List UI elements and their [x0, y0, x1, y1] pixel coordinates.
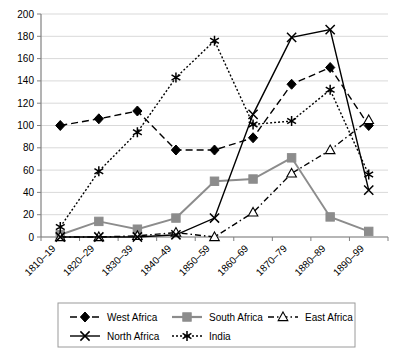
- data-point-filled-square: [183, 313, 191, 321]
- data-point-asterisk: [210, 36, 219, 46]
- data-point-filled-square: [249, 175, 257, 183]
- gridlines: [41, 14, 388, 237]
- data-point-filled-diamond: [210, 145, 219, 155]
- legend-item-south-africa[interactable]: South Africa: [172, 312, 263, 323]
- x-tick-label: 1880–89: [292, 242, 328, 278]
- y-tick-label: 100: [17, 120, 34, 131]
- data-point-filled-square: [210, 177, 218, 185]
- x-tick-label: 1850–59: [177, 242, 213, 278]
- y-tick-label: 20: [23, 209, 35, 220]
- y-tick-label: 140: [17, 75, 34, 86]
- y-tick-label: 200: [17, 9, 34, 20]
- legend-label: North Africa: [107, 331, 160, 342]
- y-tick-label: 80: [23, 142, 35, 153]
- data-point-filled-square: [326, 213, 334, 221]
- data-point-filled-diamond: [80, 312, 89, 322]
- series-line: [60, 68, 368, 151]
- data-series-layer: [55, 25, 373, 242]
- legend-label: South Africa: [209, 312, 263, 323]
- y-tick-label: 180: [17, 31, 34, 42]
- data-point-open-triangle: [325, 145, 335, 154]
- legend-item-north-africa[interactable]: North Africa: [70, 331, 160, 342]
- data-point-asterisk: [287, 116, 296, 126]
- data-point-asterisk: [183, 331, 192, 341]
- series-south-africa: [56, 154, 373, 239]
- series-india: [56, 36, 373, 232]
- x-tick-label: 1840–49: [138, 242, 174, 278]
- legend-item-west-africa[interactable]: West Africa: [70, 312, 158, 323]
- data-point-cross-x: [248, 110, 257, 119]
- data-point-open-triangle: [364, 115, 374, 124]
- y-axis-tick-labels: 020406080100120140160180200: [17, 9, 34, 243]
- x-tick-label: 1890–99: [331, 242, 367, 278]
- y-tick-label: 160: [17, 53, 34, 64]
- x-tick-label: 1860–69: [215, 242, 251, 278]
- legend-label: India: [209, 331, 231, 342]
- y-tick-label: 60: [23, 165, 35, 176]
- series-west-africa: [56, 63, 374, 156]
- data-point-filled-diamond: [171, 145, 180, 155]
- y-tick-label: 0: [28, 232, 34, 243]
- data-point-filled-square: [287, 154, 295, 162]
- series-line: [60, 41, 368, 227]
- chart-legend: West AfricaSouth AfricaEast AfricaNorth …: [58, 303, 355, 347]
- data-point-filled-square: [172, 214, 180, 222]
- data-point-filled-diamond: [248, 133, 257, 143]
- data-point-cross-x: [364, 186, 373, 195]
- y-tick-label: 120: [17, 98, 34, 109]
- legend-item-east-africa[interactable]: East Africa: [268, 312, 353, 323]
- x-tick-label: 1830–39: [99, 242, 135, 278]
- data-point-filled-diamond: [56, 121, 65, 131]
- chart-container: 020406080100120140160180200 1810–191820–…: [0, 0, 396, 357]
- legend-item-india[interactable]: India: [172, 331, 231, 342]
- x-tick-label: 1810–19: [22, 242, 58, 278]
- series-line: [60, 158, 368, 235]
- x-axis-tick-labels: 1810–191820–291830–391840–491850–591860–…: [22, 242, 366, 278]
- data-point-filled-square: [365, 227, 373, 235]
- data-point-filled-diamond: [94, 114, 103, 124]
- legend-label: West Africa: [107, 312, 158, 323]
- data-point-filled-diamond: [326, 63, 335, 73]
- x-tick-label: 1820–29: [61, 242, 97, 278]
- data-point-asterisk: [326, 85, 335, 95]
- x-tick-label: 1870–79: [254, 242, 290, 278]
- legend-border: [58, 303, 355, 347]
- legend-label: East Africa: [305, 312, 353, 323]
- y-tick-label: 40: [23, 187, 35, 198]
- line-chart: 020406080100120140160180200 1810–191820–…: [0, 0, 396, 357]
- data-point-filled-square: [95, 217, 103, 225]
